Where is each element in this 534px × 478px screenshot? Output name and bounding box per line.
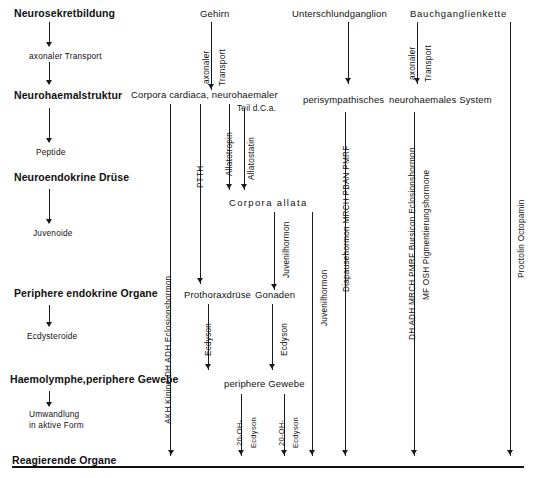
label-ptth: PTTH — [197, 166, 205, 188]
label-peptide: Peptide — [36, 148, 66, 157]
label-allatostatin: Allatostatin — [248, 137, 256, 180]
connector-cc-ptth-to-prothoraxdruese — [200, 104, 201, 284]
arrowhead-allatotropin — [226, 184, 232, 189]
arrowhead-to-ecdysteroide — [46, 322, 52, 327]
arrowhead-20oh-b — [281, 450, 287, 455]
connector-neurohaemal-to-peptide — [49, 108, 50, 142]
label-20-oh-a: 20-OH- — [236, 420, 244, 446]
label-transport-gehirn: Transport — [219, 49, 227, 86]
connector-bauchganglienkette-direct-to-baseline — [510, 22, 511, 456]
node-teil-dca: Teil d.C.a. — [237, 104, 276, 113]
label-transport-bauchganglienkette: Transport — [425, 45, 433, 82]
label-axonaler-bauchganglienkette: axonaler — [409, 47, 417, 80]
arrowhead-20oh-a — [238, 450, 244, 455]
label-20-oh-b: 20-OH- — [278, 420, 286, 446]
label-allatotropin: Allatotropin — [226, 132, 234, 176]
connector-druese-to-juvenoide — [49, 189, 50, 223]
baseline-reagierende-organe — [12, 466, 524, 468]
label-juvenilhormon-gonaden: Juvenilhormon — [283, 222, 291, 279]
label-mf-osh-pigmentierungshormone: MF OSH Pigmentierungshormone — [423, 170, 431, 300]
label-in-aktive-form: in aktive Form — [29, 421, 84, 430]
label-ecdysteroide: Ecdysteroide — [27, 332, 77, 341]
label-juvenilhormon-baseline: Juvenilhormon — [321, 270, 329, 327]
label-axonaler-gehirn: axonaler — [203, 51, 211, 84]
node-perisympathisches: perisympathisches — [303, 95, 384, 105]
label-umwandlung: Umwandlung — [29, 410, 79, 419]
arrowhead-to-peptide — [46, 138, 52, 143]
label-juvenoide: Juvenoide — [33, 229, 73, 238]
label-dh-adh-mrch-pmrf-bursicon-eclosionshormon: DH ADH MRCH PMRF Bursicon Eclosionshormo… — [409, 147, 417, 340]
node-neurohaemalstruktur: Neurohaemalstruktur — [14, 90, 122, 101]
node-periphere-endokrine-organe: Periphere endokrine Organe — [14, 288, 158, 299]
connector-ca-to-gonaden — [274, 212, 275, 290]
diagram-canvas: Neurosekretbildung Gehirn Unterschlundga… — [0, 0, 534, 478]
arrowhead-to-juvenoide — [46, 219, 52, 224]
node-prothoraxdruese: Prothoraxdrüse — [184, 290, 251, 300]
node-corpora-allata: Corpora allata — [229, 198, 308, 208]
connector-ca-to-baseline — [312, 212, 313, 456]
connector-gonaden-ecdyson — [272, 304, 273, 370]
connector-allatostatin — [244, 108, 245, 190]
node-gehirn: Gehirn — [200, 9, 229, 19]
node-neuroendokrine-druese: Neuroendokrine Drüse — [14, 172, 129, 183]
connector-neurosekret-to-neurohaemal — [49, 22, 50, 44]
node-reagierende-organe: Reagierende Organe — [12, 455, 117, 466]
arrowhead-neurosekret-axonal — [46, 42, 52, 47]
label-axonaler-transport-left: axonaler Transport — [29, 52, 102, 61]
arrowhead-unterschlundganglion — [345, 78, 351, 83]
node-neurosekretbildung: Neurosekretbildung — [14, 8, 115, 19]
node-haemolymphe-periphere-gewebe: Haemolymphe,periphere Gewebe — [10, 374, 179, 385]
arrowhead-to-neurohaemalstruktur — [46, 80, 52, 85]
node-gonaden: Gonaden — [255, 290, 295, 300]
label-ecdyson-prothorax: Ecdyson — [205, 323, 213, 356]
label-proctolin-octopamin: Proctolin Octopamin — [518, 200, 526, 278]
arrowhead-proctolin-baseline — [507, 450, 513, 455]
label-ecdyson-20oh-b: Ecdyson — [292, 417, 300, 448]
label-diapausehormon-mrch-pban-pmrf: Diapausehormon MRCH PBAN PMRF — [343, 146, 351, 292]
node-periphere-gewebe: periphere Gewebe — [224, 379, 305, 389]
node-unterschlundganglion: Unterschlundganglion — [292, 9, 387, 19]
node-bauchganglienkette: Bauchganglienkette — [410, 9, 507, 19]
arrowhead-akh-baseline — [168, 450, 174, 455]
connector-unterschlundganglion-to-perisympathisch — [348, 22, 349, 84]
arrowhead-to-umwandlung — [46, 402, 52, 407]
node-corpora-cardiaca: Corpora cardiaca, neurohaemaler — [131, 90, 278, 100]
arrowhead-allatostatin — [241, 184, 247, 189]
arrowhead-neurohaemal-baseline — [411, 450, 417, 455]
label-akh-kinine-dh-adh-eclosionshormon: AKH Kinine DH ADH Eclosionshormon — [165, 276, 173, 424]
node-neurohaemales-system: neurohaemales System — [389, 95, 492, 105]
label-ecdyson-gonaden: Ecdyson — [281, 323, 289, 356]
arrowhead-juvenilhormon-baseline — [309, 450, 315, 455]
arrowhead-diapausehormon-baseline — [342, 450, 348, 455]
arrowhead-gonaden-ecdyson — [269, 364, 275, 369]
label-ecdyson-20oh-a: Ecdyson — [250, 417, 258, 448]
arrowhead-ptth — [197, 278, 203, 283]
arrowhead-prothorax-ecdyson — [205, 364, 211, 369]
